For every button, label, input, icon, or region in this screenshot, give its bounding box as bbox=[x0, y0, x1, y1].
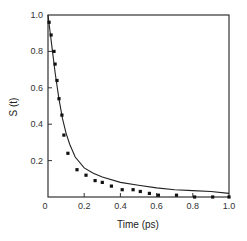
data-point bbox=[60, 114, 63, 117]
data-point bbox=[175, 194, 178, 197]
data-point bbox=[110, 185, 113, 188]
data-point bbox=[52, 50, 55, 53]
y-tick-label: 0.8 bbox=[30, 46, 43, 56]
data-point bbox=[55, 79, 58, 82]
data-point bbox=[121, 188, 124, 191]
data-point bbox=[101, 181, 104, 184]
data-point bbox=[57, 97, 60, 100]
y-tick-label: 0.2 bbox=[30, 156, 43, 166]
x-tick-label: 0.8 bbox=[187, 201, 200, 211]
x-tick-label: 1.0 bbox=[223, 201, 236, 211]
y-axis-label: S (t) bbox=[8, 98, 19, 117]
data-point bbox=[148, 192, 151, 195]
data-point bbox=[132, 188, 135, 191]
data-point bbox=[62, 134, 65, 137]
data-point bbox=[193, 195, 196, 198]
y-axis-ticks: 0.20.40.60.81.0 bbox=[30, 10, 52, 166]
x-tick-label: 0 bbox=[42, 201, 47, 211]
data-point bbox=[227, 195, 230, 198]
x-axis-label: Time (ps) bbox=[117, 219, 159, 230]
data-point bbox=[50, 33, 53, 36]
data-point bbox=[48, 21, 51, 24]
data-point bbox=[54, 63, 57, 66]
y-tick-label: 0.6 bbox=[30, 83, 43, 93]
fit-curve bbox=[48, 15, 229, 193]
data-point bbox=[75, 168, 78, 171]
chart: 00.20.40.60.81.0 0.20.40.60.81.0 Time (p… bbox=[0, 0, 247, 241]
x-tick-label: 0.4 bbox=[114, 201, 127, 211]
x-tick-label: 0.2 bbox=[78, 201, 91, 211]
data-point bbox=[94, 179, 97, 182]
data-point bbox=[84, 174, 87, 177]
data-points bbox=[48, 21, 231, 199]
y-tick-label: 1.0 bbox=[30, 10, 43, 20]
data-point bbox=[139, 190, 142, 193]
data-point bbox=[211, 195, 214, 198]
data-point bbox=[66, 152, 69, 155]
x-tick-label: 0.6 bbox=[150, 201, 163, 211]
x-axis-ticks: 00.20.40.60.81.0 bbox=[42, 193, 235, 211]
data-point bbox=[157, 194, 160, 197]
plot-frame bbox=[48, 15, 229, 197]
y-tick-label: 0.4 bbox=[30, 119, 43, 129]
